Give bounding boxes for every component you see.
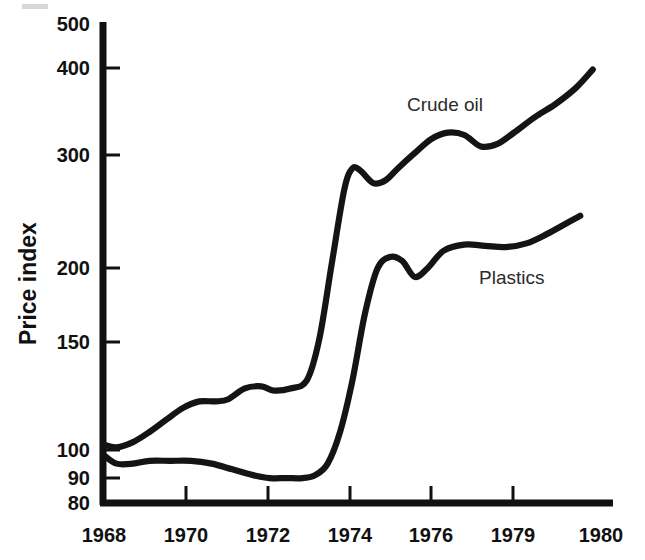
x-tick-label-1974: 1974 <box>314 525 386 545</box>
x-tick-label-1976: 1976 <box>395 525 467 545</box>
series-line-plastics <box>104 216 580 478</box>
series-label-plastics: Plastics <box>479 268 544 287</box>
x-tick-label-1980: 1980 <box>565 525 637 545</box>
x-tick-label-1979: 1979 <box>477 525 549 545</box>
series-label-crude-oil: Crude oil <box>407 95 483 114</box>
x-tick-label-1970: 1970 <box>150 525 222 545</box>
x-tick-label-1968: 1968 <box>68 525 140 545</box>
x-tick-label-1972: 1972 <box>232 525 304 545</box>
chart-plot-area <box>0 0 645 560</box>
chart-figure: Price index 5004003002001501009080 Crude… <box>0 0 645 560</box>
